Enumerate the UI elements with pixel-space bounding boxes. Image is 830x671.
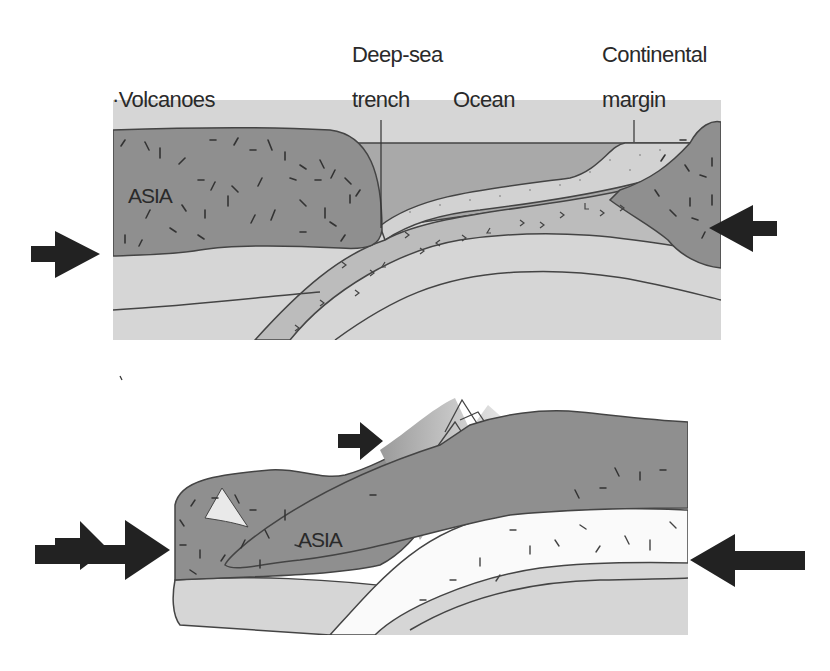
label-deep-sea: Deep-sea xyxy=(352,42,444,67)
label-asia-top: ASIA xyxy=(128,184,173,207)
subduction-cross-section: ·Volcanoes Deep-sea trench Ocean Contine… xyxy=(0,0,830,350)
subduction-diagram: ·Volcanoes Deep-sea trench Ocean Contine… xyxy=(0,0,830,350)
collision-diagram: ASIA xyxy=(0,350,830,671)
speck xyxy=(120,376,122,380)
label-trench: trench xyxy=(352,87,410,112)
label-volcanoes: ·Volcanoes xyxy=(112,87,215,112)
label-ocean: Ocean xyxy=(453,87,515,112)
arrow-right-icon xyxy=(31,231,100,278)
arrow-left-icon xyxy=(690,534,805,587)
label-asia-bottom: ASIA xyxy=(298,528,343,551)
collision-cross-section: ASIA xyxy=(0,350,830,671)
label-margin: margin xyxy=(602,87,666,112)
arrow-right-small-icon xyxy=(338,422,383,460)
arrow-right-large-icon xyxy=(35,520,170,580)
label-continental: Continental xyxy=(602,42,707,67)
